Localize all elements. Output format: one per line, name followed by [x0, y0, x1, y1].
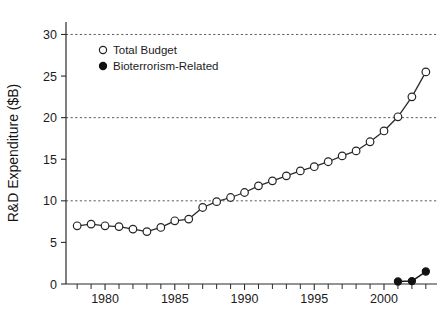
x-tick-label-1985: 1985 [161, 292, 189, 306]
total-budget-point-1985 [171, 217, 179, 225]
total-budget-point-1984 [157, 224, 165, 232]
total-budget-point-1986 [185, 215, 193, 223]
total-budget-point-1997 [338, 152, 346, 160]
y-tick-label-25: 25 [43, 70, 57, 84]
total-budget-point-1994 [297, 167, 305, 175]
legend-label-bioterrorism: Bioterrorism-Related [113, 60, 218, 72]
total-budget-point-2000 [380, 127, 388, 135]
x-tick-label-2000: 2000 [370, 292, 398, 306]
total-budget-point-1982 [129, 225, 137, 233]
total-budget-point-1983 [143, 228, 151, 236]
total-budget-point-1991 [255, 182, 263, 190]
total-budget-point-1998 [352, 147, 360, 155]
total-budget-point-1996 [324, 158, 332, 166]
total-budget-point-1988 [213, 198, 221, 206]
total-budget-point-1987 [199, 204, 207, 212]
rnd-expenditure-line-chart: 051015202530 19801985199019952000 R&D Ex… [0, 0, 443, 317]
bioterrorism-point-2003 [422, 268, 429, 275]
x-tick-label-1990: 1990 [231, 292, 259, 306]
y-tick-label-5: 5 [50, 236, 57, 250]
bioterrorism-point-2002 [408, 277, 415, 284]
y-tick-label-30: 30 [43, 28, 57, 42]
x-tick-label-1980: 1980 [91, 292, 119, 306]
total-budget-point-1979 [87, 220, 95, 228]
total-budget-point-1993 [283, 172, 291, 180]
total-budget-point-1999 [366, 138, 374, 146]
total-budget-point-1978 [73, 222, 81, 230]
total-budget-point-2001 [394, 113, 402, 121]
chart-figure: 051015202530 19801985199019952000 R&D Ex… [0, 0, 443, 317]
bioterrorism-point-2001 [394, 278, 401, 285]
total-budget-point-2002 [408, 93, 416, 101]
legend-label-total-budget: Total Budget [113, 44, 178, 56]
legend-marker-bioterrorism [99, 62, 106, 69]
y-tick-label-20: 20 [43, 111, 57, 125]
total-budget-point-1992 [269, 177, 277, 185]
y-tick-label-0: 0 [50, 278, 57, 292]
y-tick-label-10: 10 [43, 194, 57, 208]
total-budget-point-1989 [227, 194, 235, 202]
total-budget-point-1980 [101, 222, 109, 230]
total-budget-point-1995 [310, 163, 318, 171]
x-tick-label-1995: 1995 [300, 292, 328, 306]
total-budget-point-1990 [241, 189, 249, 197]
total-budget-point-1981 [115, 223, 123, 231]
y-axis-title: R&D Expenditure ($B) [5, 84, 21, 223]
y-tick-label-15: 15 [43, 153, 57, 167]
legend-marker-total-budget [99, 46, 106, 53]
total-budget-point-2003 [422, 68, 430, 76]
